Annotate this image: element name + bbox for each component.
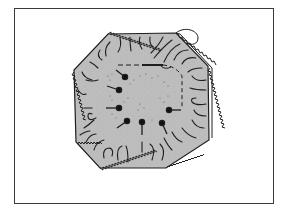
octagon-sewing-diagram (0, 0, 284, 214)
